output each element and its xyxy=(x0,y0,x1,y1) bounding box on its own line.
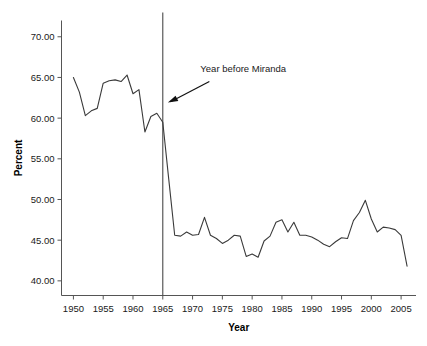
figure-caption-cropped xyxy=(0,339,427,346)
x-tick-label: 1990 xyxy=(301,303,322,314)
annotation-arrow-head xyxy=(168,96,178,103)
figure-container: 40.0045.0050.0055.0060.0065.0070.0019501… xyxy=(0,0,427,346)
x-tick-label: 2005 xyxy=(391,303,412,314)
x-tick-label: 1950 xyxy=(63,303,84,314)
x-tick-label: 1980 xyxy=(242,303,263,314)
y-tick-label: 60.00 xyxy=(31,113,55,124)
x-tick-label: 1995 xyxy=(331,303,352,314)
x-tick-label: 1970 xyxy=(182,303,203,314)
x-tick-label: 1975 xyxy=(212,303,233,314)
x-tick-label: 1965 xyxy=(152,303,173,314)
x-axis-title: Year xyxy=(228,322,249,333)
x-tick-label: 1985 xyxy=(271,303,292,314)
y-tick-label: 70.00 xyxy=(31,31,55,42)
y-tick-label: 65.00 xyxy=(31,72,55,83)
x-tick-label: 2000 xyxy=(361,303,382,314)
y-tick-label: 55.00 xyxy=(31,153,55,164)
annotation-label: Year before Miranda xyxy=(200,63,286,74)
y-tick-label: 40.00 xyxy=(31,275,55,286)
x-tick-label: 1955 xyxy=(93,303,114,314)
y-axis-title: Percent xyxy=(13,139,24,176)
y-tick-label: 50.00 xyxy=(31,194,55,205)
x-tick-label: 1960 xyxy=(122,303,143,314)
y-tick-label: 45.00 xyxy=(31,235,55,246)
data-series-line xyxy=(73,75,407,266)
line-chart: 40.0045.0050.0055.0060.0065.0070.0019501… xyxy=(0,0,427,346)
